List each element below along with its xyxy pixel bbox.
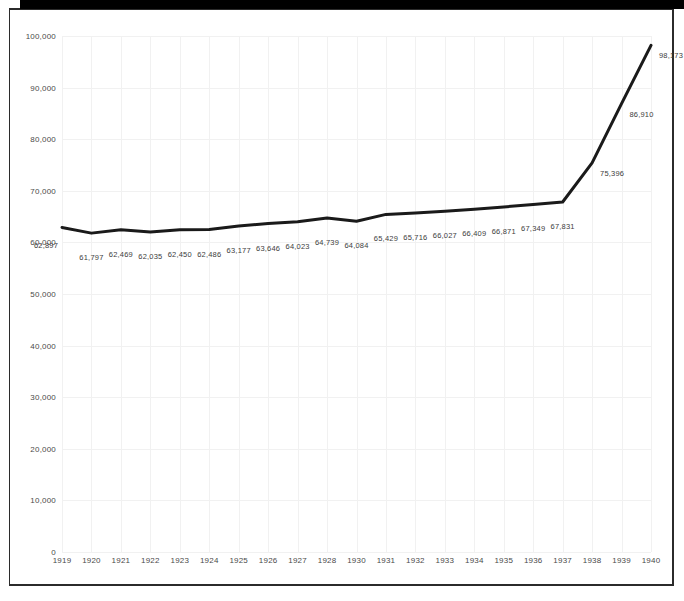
data-point-label: 62,486 [197,249,221,258]
x-axis-tick-label: 1921 [112,556,131,565]
plot-area: 62,89761,79762,46962,03562,45062,48663,1… [62,36,651,552]
data-point-label: 64,023 [286,241,310,250]
x-axis-tick-label: 1926 [259,556,278,565]
line-series [62,36,651,552]
bottom-margin-strip [0,592,684,601]
gridline-horizontal [62,552,651,553]
y-axis-tick-label: 20,000 [30,444,56,453]
y-axis-tick-label: 30,000 [30,393,56,402]
x-axis-tick-label: 1935 [494,556,513,565]
data-point-label: 65,429 [374,234,398,243]
x-axis-tick-label: 1920 [82,556,101,565]
x-axis-tick-label: 1937 [553,556,572,565]
data-point-label: 64,084 [344,241,368,250]
x-axis-tick-label: 1940 [642,556,661,565]
series-line [62,45,651,233]
x-axis-tick-label: 1919 [53,556,72,565]
x-axis-tick-label: 1927 [288,556,307,565]
y-axis-tick-label: 70,000 [30,186,56,195]
data-point-label: 66,027 [433,231,457,240]
y-axis-tick-label: 80,000 [30,135,56,144]
x-axis-tick-label: 1923 [170,556,189,565]
data-point-label: 98,173 [659,51,683,60]
x-axis-tick-label: 1933 [436,556,455,565]
y-axis-tick-labels: 010,00020,00030,00040,00050,00060,00070,… [0,36,56,552]
x-axis-tick-label: 1924 [200,556,219,565]
data-point-label: 64,739 [315,237,339,246]
data-point-label: 62,469 [109,249,133,258]
data-point-label: 67,831 [551,221,575,230]
data-point-label: 67,349 [521,224,545,233]
y-axis-tick-label: 100,000 [26,32,56,41]
x-axis-tick-label: 1928 [318,556,337,565]
x-axis-tick-label: 1934 [465,556,484,565]
data-point-label: 62,450 [168,249,192,258]
data-point-label: 66,871 [492,226,516,235]
x-axis-tick-label: 1931 [377,556,396,565]
x-axis-tick-label: 1939 [612,556,631,565]
data-point-label: 62,897 [34,241,58,250]
data-point-label: 63,177 [227,246,251,255]
x-axis-tick-label: 1932 [406,556,425,565]
x-axis-tick-label: 1922 [141,556,160,565]
data-point-label: 86,910 [629,109,653,118]
top-black-bar [20,0,684,9]
y-axis-tick-label: 50,000 [30,290,56,299]
y-axis-tick-label: 40,000 [30,341,56,350]
x-axis-tick-label: 1925 [229,556,248,565]
data-point-label: 66,409 [462,229,486,238]
chart-figure: 010,00020,00030,00040,00050,00060,00070,… [0,0,684,601]
x-axis-tick-label: 1938 [583,556,602,565]
x-axis-tick-label: 1930 [347,556,366,565]
y-axis-tick-label: 90,000 [30,83,56,92]
data-point-label: 62,035 [138,251,162,260]
data-point-label: 65,716 [403,232,427,241]
data-point-label: 75,396 [600,168,624,177]
y-axis-tick-label: 10,000 [30,496,56,505]
x-axis-tick-labels: 1919192019211922192319241925192619271928… [62,556,651,576]
x-axis-tick-label: 1936 [524,556,543,565]
data-point-label: 63,646 [256,243,280,252]
data-point-label: 61,797 [79,253,103,262]
